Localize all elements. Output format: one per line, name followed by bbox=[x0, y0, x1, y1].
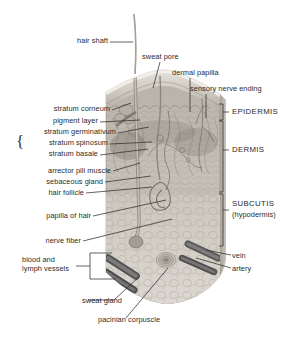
label-sensory-nerve-ending: sensory nerve ending bbox=[190, 84, 262, 93]
label-stratum-basale: stratum basale bbox=[0, 149, 98, 158]
label-artery: artery bbox=[232, 264, 251, 273]
hair-shaft-strand bbox=[134, 14, 136, 74]
label-epidermis: EPIDERMIS bbox=[232, 107, 278, 116]
label-hypodermis: (hypodermis) bbox=[232, 210, 276, 219]
label-sweat-pore: sweat pore bbox=[142, 52, 179, 61]
skin-diagram-figure: hair shaft sweat pore dermal papilla sen… bbox=[0, 0, 298, 342]
label-blood-and: blood and bbox=[22, 255, 55, 264]
label-subcutis: SUBCUTIS bbox=[232, 199, 274, 208]
label-vein: vein bbox=[232, 251, 246, 260]
label-lymph-vessels: lymph vessels bbox=[22, 264, 69, 273]
label-stratum-corneum: stratum corneum bbox=[0, 104, 110, 113]
label-nerve-fiber: nerve fiber bbox=[0, 236, 81, 245]
label-papilla-of-hair: papilla of hair bbox=[0, 211, 91, 220]
label-hair-follicle: hair follicle bbox=[0, 188, 84, 197]
label-arrector-pili-muscle: arrector pili muscle bbox=[0, 166, 111, 175]
label-pacinian-corpuscle: pacinian corpuscle bbox=[98, 315, 160, 324]
label-hair-shaft: hair shaft bbox=[0, 36, 108, 45]
skin-block-body bbox=[104, 70, 228, 304]
label-pigment-layer: pigment layer bbox=[0, 116, 98, 125]
label-dermal-papilla: dermal papilla bbox=[172, 68, 219, 77]
label-dermis: DERMIS bbox=[232, 145, 264, 154]
label-sweat-gland: sweat gland bbox=[82, 296, 122, 305]
label-sebaceous-gland: sebaceous gland bbox=[0, 177, 103, 186]
label-stratum-spinosum: stratum spinosum bbox=[0, 138, 108, 147]
